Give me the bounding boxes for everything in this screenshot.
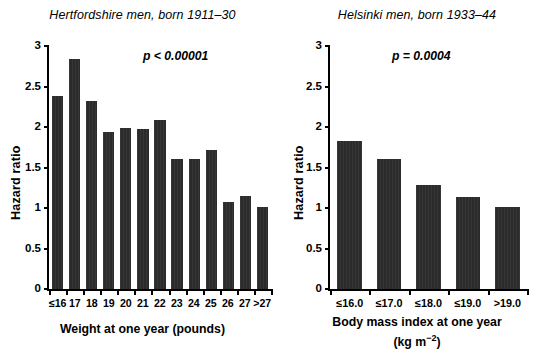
y-axis-tick-label: 0 xyxy=(35,283,41,295)
bar-slot xyxy=(100,46,117,289)
bar-slot xyxy=(448,46,487,289)
bar-slot xyxy=(151,46,168,289)
y-axis-tick-mark xyxy=(325,86,330,88)
y-axis-tick-mark xyxy=(44,288,49,290)
x-axis-tick-label: 26 xyxy=(219,297,236,309)
bar[interactable] xyxy=(154,120,165,289)
x-axis-tick-mark xyxy=(169,289,171,295)
bar-slot xyxy=(369,46,408,289)
bar[interactable] xyxy=(495,207,519,289)
bar-group-helsinki xyxy=(330,46,527,289)
y-axis-tick-label: 2 xyxy=(35,121,41,133)
bar[interactable] xyxy=(456,197,480,289)
x-axis-tick-mark xyxy=(409,289,411,295)
bar[interactable] xyxy=(206,150,217,289)
x-axis-labels-hertfordshire: ≤161718192021222324252627>27 xyxy=(49,297,271,309)
x-axis-tick-label: 17 xyxy=(66,297,83,309)
x-axis-caption-units-helsinki: (kg m−2) xyxy=(285,333,549,349)
x-axis-tick-mark xyxy=(100,289,102,295)
x-axis-tick-mark xyxy=(488,289,490,295)
y-axis-tick-mark xyxy=(44,207,49,209)
units-exponent: −2 xyxy=(426,333,436,343)
y-axis-tick-label: 1.5 xyxy=(306,161,322,173)
y-axis-tick-mark xyxy=(325,45,330,47)
panel-hertfordshire: Hertfordshire men, born 1911–30 p < 0.00… xyxy=(0,0,285,363)
panel-title-hertfordshire: Hertfordshire men, born 1911–30 xyxy=(0,8,285,22)
bar[interactable] xyxy=(257,207,268,289)
y-axis-tick-label: 2.5 xyxy=(306,80,322,92)
plot-area-hertfordshire: ≤161718192021222324252627>27 00.511.522.… xyxy=(47,46,271,291)
y-axis-tick-label: 1 xyxy=(35,202,41,214)
x-axis-tick-label: ≤16 xyxy=(49,297,66,309)
y-axis-tick-mark xyxy=(44,86,49,88)
x-axis-tick-mark xyxy=(330,289,332,295)
x-axis-ticks-hertfordshire xyxy=(49,289,271,295)
bar-slot xyxy=(220,46,237,289)
y-axis-tick-mark xyxy=(325,126,330,128)
x-axis-tick-mark xyxy=(83,289,85,295)
x-axis-tick-label: 18 xyxy=(83,297,100,309)
x-axis-tick-label: 22 xyxy=(151,297,168,309)
bar[interactable] xyxy=(223,202,234,289)
figure-container: Hertfordshire men, born 1911–30 p < 0.00… xyxy=(0,0,549,363)
bar[interactable] xyxy=(377,159,401,289)
bar-slot xyxy=(83,46,100,289)
y-axis-tick-mark xyxy=(44,45,49,47)
x-axis-ticks-helsinki xyxy=(330,289,527,295)
bar-slot xyxy=(409,46,448,289)
x-axis-tick-mark xyxy=(186,289,188,295)
x-axis-tick-label: 25 xyxy=(202,297,219,309)
bar-slot xyxy=(66,46,83,289)
x-axis-tick-label: 23 xyxy=(168,297,185,309)
x-axis-tick-mark xyxy=(66,289,68,295)
y-axis-tick-mark xyxy=(325,248,330,250)
x-axis-tick-mark xyxy=(237,289,239,295)
bar[interactable] xyxy=(171,159,182,289)
bar-slot xyxy=(117,46,134,289)
bar-slot xyxy=(237,46,254,289)
panel-helsinki: Helsinki men, born 1933–44 p = 0.0004 ≤1… xyxy=(285,0,549,363)
x-axis-caption-helsinki: Body mass index at one year xyxy=(285,315,549,329)
bar[interactable] xyxy=(86,101,97,289)
bar[interactable] xyxy=(137,129,148,289)
bar-slot xyxy=(186,46,203,289)
bar-group-hertfordshire xyxy=(49,46,271,289)
bar-slot xyxy=(134,46,151,289)
bar[interactable] xyxy=(69,59,80,289)
y-axis-tick-label: 2 xyxy=(316,121,322,133)
x-axis-tick-mark xyxy=(369,289,371,295)
bar[interactable] xyxy=(416,185,440,289)
bar-slot xyxy=(49,46,66,289)
units-close-paren: ) xyxy=(436,335,440,349)
x-axis-tick-label: ≤18.0 xyxy=(409,297,448,309)
bar[interactable] xyxy=(52,96,63,289)
x-axis-tick-mark xyxy=(527,289,529,295)
bar-slot xyxy=(254,46,271,289)
bar-slot xyxy=(203,46,220,289)
x-axis-tick-mark xyxy=(134,289,136,295)
y-axis-tick-label: 0.5 xyxy=(306,242,322,254)
y-axis-tick-label: 0 xyxy=(316,283,322,295)
bar[interactable] xyxy=(337,141,361,289)
panel-title-helsinki: Helsinki men, born 1933–44 xyxy=(285,8,549,22)
x-axis-tick-mark xyxy=(203,289,205,295)
y-axis-tick-mark xyxy=(325,288,330,290)
x-axis-tick-mark xyxy=(254,289,256,295)
x-axis-caption-hertfordshire: Weight at one year (pounds) xyxy=(0,322,285,336)
y-axis-tick-label: 0.5 xyxy=(25,242,41,254)
x-axis-tick-label: ≤19.0 xyxy=(448,297,487,309)
bar[interactable] xyxy=(189,159,200,289)
y-axis-tick-label: 3 xyxy=(35,40,41,52)
y-axis-tick-label: 3 xyxy=(316,40,322,52)
x-axis-tick-mark xyxy=(151,289,153,295)
plot-area-helsinki: ≤16.0≤17.0≤18.0≤19.0>19.0 00.511.522.53 xyxy=(328,46,527,291)
bar[interactable] xyxy=(120,128,131,289)
y-axis-tick-mark xyxy=(44,126,49,128)
y-axis-tick-mark xyxy=(44,167,49,169)
x-axis-tick-mark xyxy=(220,289,222,295)
x-axis-tick-label: 27 xyxy=(236,297,253,309)
x-axis-tick-label: 20 xyxy=(117,297,134,309)
x-axis-tick-mark xyxy=(117,289,119,295)
bar[interactable] xyxy=(103,132,114,289)
bar[interactable] xyxy=(240,196,251,289)
